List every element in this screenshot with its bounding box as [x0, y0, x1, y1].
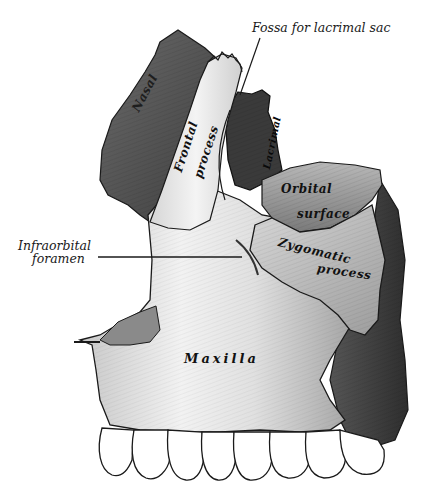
label-orbital: Orbital [281, 183, 332, 195]
tooth [270, 432, 310, 478]
tooth [168, 430, 204, 480]
tooth [99, 428, 134, 476]
leader-fossa-lacrimal-sac [240, 38, 260, 95]
tooth [132, 430, 170, 479]
label-infraorbital-line2: foramen [32, 253, 85, 266]
tooth [234, 432, 272, 480]
label-maxilla: Maxilla [184, 352, 259, 365]
maxilla-illustration: Fossa for lacrimal sac Infraorbital fora… [0, 0, 428, 504]
label-orbital-surface: surface [297, 208, 350, 220]
label-fossa-lacrimal-sac: Fossa for lacrimal sac [252, 22, 390, 35]
teeth-row [99, 428, 384, 480]
tooth [202, 432, 236, 480]
